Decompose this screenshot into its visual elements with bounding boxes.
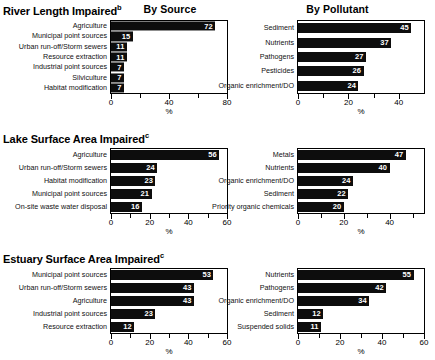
plot-area: Municipal point sources53Urban run-off/S… <box>110 268 228 334</box>
bar-value-label: 43 <box>183 297 192 305</box>
x-axis: 0204060% <box>110 334 228 348</box>
category-label: Urban run-off/Storm sewers <box>19 285 107 292</box>
bar: 56 <box>111 150 219 160</box>
category-label: Industrial point sources <box>33 310 107 317</box>
category-label: Pathogens <box>260 53 294 60</box>
category-label: Nutrients <box>265 272 294 279</box>
bar-row: Sediment45 <box>298 21 424 35</box>
axis-tick-label: 40 <box>165 98 174 107</box>
category-label: Habitat modification <box>44 177 107 184</box>
axis-tick-label: 40 <box>394 98 403 107</box>
bar-value-label: 43 <box>183 284 192 292</box>
axis-tick-label: 20 <box>344 98 353 107</box>
axis-caption-percent: % <box>165 227 172 236</box>
bar-row: Urban run-off/Storm sewers11 <box>111 42 227 52</box>
plot-area: Agriculture56Urban run-off/Storm sewers2… <box>110 148 228 214</box>
bar-row: Resource extraction11 <box>111 52 227 62</box>
axis-tick <box>323 94 324 98</box>
bar: 47 <box>298 150 406 160</box>
bar-value-label: 16 <box>131 203 140 211</box>
section-title-text: Lake Surface Area Impaired <box>3 133 145 145</box>
bar-value-label: 26 <box>352 68 361 76</box>
bar-value-label: 24 <box>342 177 351 185</box>
bar-rows: Agriculture72Municipal point sources15Ur… <box>111 21 227 93</box>
category-label: Resource extraction <box>43 53 107 60</box>
axis-tick <box>208 214 209 218</box>
section-title-text: Estuary Surface Area Impaired <box>3 253 160 265</box>
category-label: Agriculture <box>73 297 107 304</box>
section-title-footnote: b <box>117 3 121 12</box>
bar: 11 <box>298 322 321 332</box>
bar: 7 <box>111 73 124 82</box>
axis-tick <box>319 334 320 338</box>
bar-value-label: 11 <box>116 43 124 51</box>
bar-value-label: 45 <box>400 24 409 32</box>
category-label: Agriculture <box>73 152 107 159</box>
column-header-by-pollutant: By Pollutant <box>250 3 425 15</box>
category-label: Organic enrichment/DO <box>219 177 295 184</box>
bar-value-label: 42 <box>375 284 384 292</box>
bar: 12 <box>111 322 134 332</box>
bar-row: Metals47 <box>298 149 424 162</box>
bar-row: Agriculture56 <box>111 149 227 162</box>
axis-tick-label: 0 <box>296 218 300 227</box>
axis-tick-label: 40 <box>184 338 193 347</box>
axis-tick-label: 60 <box>420 338 429 347</box>
bar-value-label: 34 <box>358 297 367 305</box>
bar-row: Nutrients37 <box>298 35 424 49</box>
axis-caption-percent: % <box>357 227 364 236</box>
axis-tick-label: 40 <box>184 218 193 227</box>
bar-value-label: 23 <box>144 177 153 185</box>
bar: 23 <box>111 309 155 319</box>
axis-tick <box>321 214 322 218</box>
bar-value-label: 27 <box>355 53 364 61</box>
axis-tick-label: 20 <box>145 218 154 227</box>
bar: 7 <box>111 63 124 72</box>
chart-panel-lake-by-source: Agriculture56Urban run-off/Storm sewers2… <box>110 148 228 240</box>
axis-tick-label: 80 <box>223 98 232 107</box>
category-label: Sediment <box>264 310 294 317</box>
bar-value-label: 21 <box>141 190 150 198</box>
section-title-lake: Lake Surface Area Impairedc <box>3 131 149 145</box>
bar-value-label: 53 <box>202 272 211 280</box>
axis-tick <box>367 214 368 218</box>
bar-value-label: 40 <box>379 164 388 172</box>
category-label: Sediment <box>264 190 294 197</box>
bar-row: Municipal point sources15 <box>111 31 227 41</box>
bar: 12 <box>298 309 323 319</box>
bar: 22 <box>298 189 348 199</box>
axis-caption-percent: % <box>357 347 364 356</box>
section-title-estuary: Estuary Surface Area Impairedc <box>3 251 164 265</box>
bar-value-label: 47 <box>395 152 404 160</box>
axis-tick-label: 20 <box>339 218 348 227</box>
bar-row: On-site waste water disposal16 <box>111 200 227 213</box>
bar: 11 <box>111 42 127 51</box>
bar-value-label: 7 <box>117 84 121 92</box>
bar-value-label: 15 <box>122 33 131 41</box>
category-label: Industrial point sources <box>33 64 107 71</box>
figure-canvas: By Source By Pollutant River Length Impa… <box>0 0 435 360</box>
bar-row: Organic enrichment/DO24 <box>298 79 424 93</box>
bar-value-label: 56 <box>208 152 217 160</box>
axis-tick <box>403 334 404 338</box>
axis-tick <box>361 334 362 338</box>
bar-row: Agriculture72 <box>111 21 227 31</box>
axis-caption-percent: % <box>357 107 364 116</box>
bar-value-label: 22 <box>337 190 346 198</box>
bar-value-label: 12 <box>312 310 321 318</box>
axis-tick-label: 20 <box>145 338 154 347</box>
bar-row: Resource extraction12 <box>111 320 227 333</box>
axis-tick <box>130 334 131 338</box>
bar: 40 <box>298 163 390 173</box>
axis-tick-label: 40 <box>378 338 387 347</box>
bar: 26 <box>298 66 364 76</box>
axis-tick-label: 60 <box>223 338 232 347</box>
category-label: Silviculture <box>72 74 107 81</box>
bar: 37 <box>298 38 391 48</box>
x-axis: 02040% <box>297 94 425 108</box>
bar-row: Pathogens27 <box>298 50 424 64</box>
axis-caption-percent: % <box>165 347 172 356</box>
category-label: Nutrients <box>265 165 294 172</box>
column-header-by-source: By Source <box>110 3 230 15</box>
axis-tick <box>374 94 375 98</box>
